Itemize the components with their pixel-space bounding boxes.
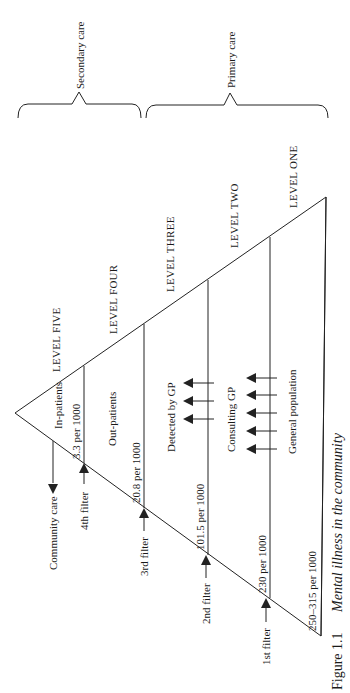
arrow-left-icon <box>183 396 193 406</box>
primary-care-brace: Primary care <box>146 31 328 118</box>
level-five-label: LEVEL FIVE <box>50 307 62 372</box>
arrow-left-icon <box>183 414 193 424</box>
detected-by-gp-arrows <box>183 378 214 424</box>
consulting-gp-label: Consulting GP <box>225 387 237 452</box>
figure-title: Mental illness in the community <box>330 432 345 613</box>
filter-4: 4th filter <box>78 463 90 530</box>
level-three-label: LEVEL THREE <box>164 216 176 292</box>
secondary-care-brace: Secondary care <box>18 21 141 118</box>
primary-care-label: Primary care <box>225 31 237 88</box>
mental-illness-filter-diagram: Secondary care Primary care LEVEL FIVE L… <box>0 0 350 693</box>
rate-level-three: 101.5 per 1000 <box>194 483 206 550</box>
arrow-down-icon <box>48 484 58 494</box>
community-care: Community care <box>47 441 59 570</box>
filter-1-label: 1st filter <box>260 628 272 665</box>
secondary-care-label: Secondary care <box>74 21 86 89</box>
filter-2: 2nd filter <box>200 555 212 624</box>
detected-by-gp-label: Detected by GP <box>165 382 177 452</box>
arrow-left-icon <box>246 390 256 400</box>
arrow-up-icon <box>79 463 89 473</box>
rate-level-four: 20.8 per 1000 <box>130 442 142 503</box>
arrow-left-icon <box>246 408 256 418</box>
filter-4-label: 4th filter <box>78 491 90 530</box>
level-one-label: LEVEL ONE <box>287 146 299 208</box>
filter-1: 1st filter <box>260 598 272 665</box>
rate-level-one: 250–315 per 1000 <box>306 550 318 631</box>
filter-3-label: 3rd filter <box>138 537 150 576</box>
level-two-label: LEVEL TWO <box>228 183 240 248</box>
arrow-left-icon <box>246 426 256 436</box>
arrow-left-icon <box>246 373 256 383</box>
figure-number: Figure 1.1 <box>330 632 345 690</box>
arrow-left-icon <box>183 378 193 388</box>
arrow-up-icon <box>261 598 271 608</box>
arrow-left-icon <box>246 444 256 454</box>
filter-2-label: 2nd filter <box>200 583 212 624</box>
consulting-gp-arrows <box>246 373 277 454</box>
community-care-label: Community care <box>47 496 59 570</box>
filter-3: 3rd filter <box>138 508 150 576</box>
rate-level-five: 3.3 per 1000 <box>70 403 82 459</box>
level-four-label: LEVEL FOUR <box>107 264 119 334</box>
arrow-up-icon <box>201 555 211 565</box>
out-patients-label: Out-patients <box>106 392 118 446</box>
figure-caption: Figure 1.1 Mental illness in the communi… <box>330 432 345 690</box>
in-patients-label: In-patients <box>52 382 64 429</box>
rate-level-two: 230 per 1000 <box>256 534 268 593</box>
general-population-label: General population <box>286 369 298 454</box>
